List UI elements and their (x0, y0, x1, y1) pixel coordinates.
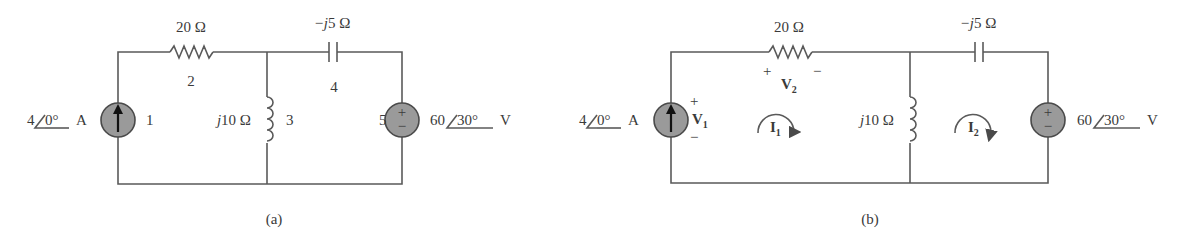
circuit-diagrams: + − 20 Ω 2 −j5 Ω 4 j10 Ω 3 1 5 4 0° A 60… (0, 0, 1190, 241)
wire-bottom-b (671, 137, 1048, 183)
resistor-value-a: 20 Ω (176, 19, 206, 35)
vs-minus-b: − (1044, 118, 1052, 134)
node-label-1: 1 (146, 112, 154, 128)
svg-text:60: 60 (430, 112, 445, 128)
v2-plus: + (763, 63, 771, 79)
voltage-source-value-b: 60 30° V (1077, 112, 1158, 128)
svg-text:0°: 0° (45, 112, 59, 128)
inductor-icon-a (267, 97, 273, 141)
v2-minus: − (813, 63, 821, 79)
figure-a: + − 20 Ω 2 −j5 Ω 4 j10 Ω 3 1 5 4 0° A 60… (27, 15, 511, 228)
resistor-value-b: 20 Ω (774, 19, 804, 35)
current-source-icon-b (654, 103, 688, 137)
svg-text:0°: 0° (597, 112, 611, 128)
figure-b: + − 20 Ω + − V2 + V1 − −j5 Ω j10 Ω I1 I2… (579, 15, 1158, 228)
capacitor-value-b: −j5 Ω (960, 15, 997, 31)
svg-text:V: V (1147, 112, 1158, 128)
inductor-value-b: j10 Ω (858, 112, 894, 128)
wire-top-left-a (118, 52, 170, 103)
inductor-value-a: j10 Ω (215, 112, 251, 128)
v1-minus: − (690, 129, 698, 145)
svg-text:30°: 30° (457, 112, 478, 128)
resistor-icon-a (170, 46, 213, 58)
current-source-icon-a (101, 103, 135, 137)
svg-text:60: 60 (1077, 112, 1092, 128)
svg-text:A: A (628, 112, 639, 128)
svg-text:4: 4 (579, 112, 587, 128)
v1-label: V1 (692, 111, 708, 130)
wire-top-right-b (983, 52, 1048, 103)
v2-label: V2 (781, 76, 797, 95)
wire-bottom-a (118, 137, 402, 184)
caption-b: (b) (861, 211, 879, 228)
node-label-4: 4 (330, 79, 338, 95)
capacitor-icon-a (329, 42, 337, 62)
svg-text:A: A (76, 112, 87, 128)
capacitor-icon-b (975, 42, 983, 62)
v1-plus: + (690, 93, 698, 109)
svg-text:4: 4 (27, 112, 35, 128)
current-source-value-b: 4 0° A (579, 112, 639, 128)
inductor-icon-b (910, 97, 916, 141)
mesh-current-2-label: I2 (968, 119, 979, 138)
wire-top-right-a (337, 52, 402, 103)
svg-text:V: V (500, 112, 511, 128)
capacitor-value-a: −j5 Ω (314, 15, 351, 31)
current-source-value-a: 4 0° A (27, 112, 87, 128)
node-label-2: 2 (187, 73, 195, 89)
caption-a: (a) (266, 211, 283, 228)
voltage-source-value-a: 60 30° V (430, 112, 511, 128)
resistor-icon-b (769, 46, 812, 58)
node-label-3: 3 (286, 112, 294, 128)
mesh-current-1-label: I1 (770, 119, 781, 138)
wire-top-left-b (671, 52, 769, 103)
vs-minus-a: − (398, 118, 406, 134)
node-label-5: 5 (379, 112, 387, 128)
svg-text:30°: 30° (1104, 112, 1125, 128)
